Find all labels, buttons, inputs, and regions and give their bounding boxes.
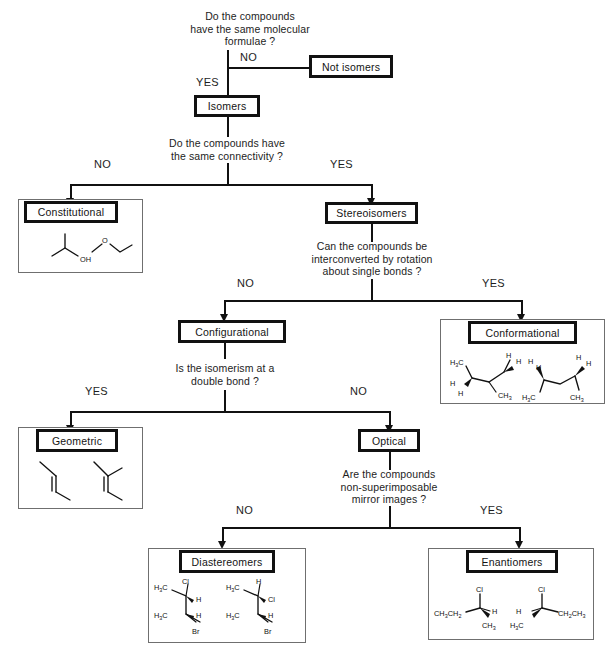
atom-h-e2: H (516, 607, 521, 616)
atom-h3c-e2: H3C (510, 621, 524, 631)
node-constitutional[interactable]: Constitutional (26, 203, 116, 221)
atom-h-d4: H (268, 611, 273, 620)
atom-o: O (102, 236, 108, 245)
atom-h3c-d3: H3C (226, 583, 240, 593)
connector-q5-split (222, 527, 520, 529)
connector-q3-stem (371, 279, 373, 301)
connector-q5-stem (389, 506, 391, 528)
connector-q2-split (70, 184, 372, 186)
atom-br-d1: Br (192, 627, 200, 636)
structure-geometric (22, 456, 140, 506)
atom-h3c-d2: H3C (154, 611, 168, 621)
atom-h-right-top3: H (576, 353, 581, 362)
atom-ch3-e1: CH3 (482, 621, 496, 631)
atom-ch2ch3-e2: CH2CH3 (558, 609, 585, 619)
node-stereoisomers[interactable]: Stereoisomers (327, 204, 416, 222)
atom-oh: OH (80, 255, 91, 264)
node-diastereomers[interactable]: Diastereomers (181, 552, 273, 571)
atom-ch3-right: CH3 (570, 393, 584, 403)
edge-label-q2-yes: YES (330, 158, 353, 170)
question-non-superimposable-mirror-images: Are the compounds non-superimposable mir… (312, 468, 466, 506)
atom-ch3ch2-e1: CH3CH2 (434, 609, 461, 619)
atom-h-d2: H (196, 611, 201, 620)
atom-ch3-left: CH3 (498, 391, 512, 401)
node-conformational-label: Conformational (485, 327, 559, 339)
atom-h-d3: H (256, 577, 261, 586)
structure-diastereomers: H3C Cl H H3C H Br H3C H Cl H3C H Br (152, 576, 304, 642)
structure-conformational: H3C H H H H CH3 H H H H H3C CH3 (444, 348, 602, 402)
node-enantiomers[interactable]: Enantiomers (468, 552, 556, 571)
structure-enantiomers: Cl CH3CH2 H CH3 Cl H H3C CH2CH3 (432, 578, 592, 638)
atom-h-left-top: H (506, 351, 511, 360)
atom-cl-e2: Cl (538, 585, 545, 594)
connector-q4-stem (224, 390, 226, 412)
connector-stereoisomers-down (371, 222, 373, 242)
node-optical[interactable]: Optical (360, 431, 418, 450)
edge-label-q4-yes: YES (85, 385, 108, 397)
edge-label-q5-no: NO (236, 504, 253, 516)
atom-h-e1: H (492, 607, 497, 616)
node-conformational[interactable]: Conformational (470, 323, 575, 342)
node-geometric[interactable]: Geometric (38, 431, 116, 450)
node-not-isomers[interactable]: Not isomers (311, 57, 391, 76)
atom-h-left-low2: H (458, 389, 463, 398)
atom-h-left-low: H (450, 379, 455, 388)
node-geometric-label: Geometric (52, 435, 102, 447)
node-isomers-label: Isomers (208, 100, 247, 112)
question-interconverted-rotation: Can the compounds be interconverted by r… (288, 240, 456, 278)
atom-h3c-left: H3C (450, 358, 464, 368)
atom-br-d2: Br (264, 627, 272, 636)
question-isomerism-double-bond: Is the isomerism at a double bond ? (152, 362, 298, 387)
atom-h-right-top: H (528, 357, 533, 366)
atom-h-right-top4: H (586, 359, 591, 368)
connector-isomers-down (227, 115, 229, 137)
connector-q4-split (70, 411, 390, 413)
node-stereoisomers-label: Stereoisomers (336, 207, 406, 219)
node-constitutional-label: Constitutional (38, 206, 104, 218)
question-same-molecular-formulae: Do the compounds have the same molecular… (160, 10, 340, 48)
edge-label-q3-no: NO (237, 277, 254, 289)
edge-label-q5-yes: YES (480, 504, 503, 516)
atom-cl-e1: Cl (476, 585, 483, 594)
connector-q1-stem (227, 50, 229, 75)
edge-label-q2-no: NO (94, 158, 111, 170)
connector-q2-stem (227, 163, 229, 185)
atom-h3c-right: H3C (522, 393, 536, 403)
atom-h-d1: H (196, 595, 201, 604)
atom-cl-d1: Cl (182, 577, 189, 586)
node-enantiomers-label: Enantiomers (481, 556, 542, 568)
connector-q1-no (227, 67, 311, 69)
question-same-connectivity: Do the compounds have the same connectiv… (147, 137, 307, 162)
node-configurational[interactable]: Configurational (180, 322, 284, 341)
edge-label-q4-no: NO (350, 385, 367, 397)
connector-q1-yes (227, 75, 229, 97)
connector-optical-down (389, 450, 391, 470)
node-optical-label: Optical (372, 435, 406, 447)
atom-cl-d2: Cl (268, 595, 275, 604)
structure-constitutional: OH O (22, 226, 140, 270)
atom-h-right-top2: H (536, 363, 541, 372)
node-isomers[interactable]: Isomers (196, 97, 258, 115)
node-not-isomers-label: Not isomers (322, 61, 380, 73)
edge-label-q3-yes: YES (482, 277, 505, 289)
atom-h3c-d4: H3C (226, 611, 240, 621)
connector-configurational-down (224, 341, 226, 359)
atom-h3c-d1: H3C (154, 583, 168, 593)
node-configurational-label: Configurational (195, 326, 269, 338)
edge-label-q1-no: NO (240, 51, 257, 63)
atom-h-left-top2: H (516, 357, 521, 366)
node-diastereomers-label: Diastereomers (192, 556, 263, 568)
arrow-to-configurational (220, 314, 228, 322)
edge-label-q1-yes: YES (196, 76, 219, 88)
connector-q3-split (224, 300, 522, 302)
